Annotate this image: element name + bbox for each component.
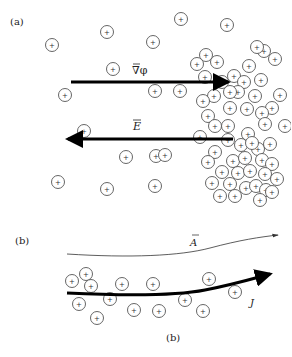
svg-text:+: +: [212, 149, 218, 157]
svg-text:+: +: [267, 141, 273, 149]
positive-ion-icon: +: [73, 298, 86, 311]
positive-ion-icon: +: [229, 286, 242, 299]
svg-text:+: +: [235, 170, 241, 178]
positive-ion-icon: +: [153, 305, 166, 318]
positive-ion-icon: +: [85, 280, 98, 293]
positive-ion-icon: +: [202, 156, 215, 169]
svg-text:+: +: [277, 92, 283, 100]
positive-ion-icon: +: [91, 312, 104, 325]
svg-text:+: +: [254, 44, 260, 52]
svg-text:+: +: [62, 92, 68, 100]
svg-text:+: +: [123, 154, 129, 162]
svg-text:+: +: [69, 278, 75, 286]
svg-text:+: +: [205, 113, 211, 121]
svg-text:+: +: [231, 73, 237, 81]
svg-text:+: +: [227, 105, 233, 113]
positive-ion-icon: +: [175, 13, 188, 26]
positive-ion-icon: +: [120, 151, 133, 164]
svg-text:+: +: [205, 159, 211, 167]
positive-ion-icon: +: [227, 155, 240, 168]
diagram: (a) ++++++++++++++++++++++++++++++++++++…: [0, 0, 291, 357]
positive-ion-icon: +: [197, 305, 210, 318]
positive-ion-icon: +: [249, 90, 262, 103]
svg-text:+: +: [242, 155, 248, 163]
svg-text:+: +: [156, 308, 162, 316]
svg-text:∇φ: ∇φ: [132, 64, 148, 77]
positive-ion-icon: +: [52, 176, 65, 189]
svg-text:+: +: [162, 152, 168, 160]
svg-text:+: +: [119, 281, 125, 289]
svg-text:+: +: [252, 93, 258, 101]
panel-a-ions: ++++++++++++++++++++++++++++++++++++++++…: [46, 13, 292, 207]
svg-text:+: +: [177, 88, 183, 96]
positive-ion-icon: +: [149, 180, 162, 193]
svg-text:+: +: [238, 142, 244, 150]
svg-text:+: +: [83, 271, 89, 279]
svg-text:+: +: [244, 106, 250, 114]
svg-text:+: +: [104, 186, 110, 194]
positive-ion-icon: +: [174, 85, 187, 98]
panel-b-label: (b): [15, 235, 29, 246]
svg-text:+: +: [272, 56, 278, 64]
positive-ion-icon: +: [101, 183, 114, 196]
svg-text:+: +: [88, 283, 94, 291]
svg-text:+: +: [212, 123, 218, 131]
positive-ion-icon: +: [244, 165, 257, 178]
positive-ion-icon: +: [232, 167, 245, 180]
vector-potential-arrow: [67, 235, 278, 256]
positive-ion-icon: +: [269, 53, 282, 66]
svg-text:+: +: [214, 59, 220, 67]
positive-ion-icon: +: [194, 131, 207, 144]
svg-text:+: +: [182, 297, 188, 305]
diagram-canvas: (a) ++++++++++++++++++++++++++++++++++++…: [0, 0, 291, 357]
svg-text:+: +: [269, 105, 275, 113]
positive-ion-icon: +: [239, 152, 252, 165]
positive-ion-icon: +: [264, 138, 277, 151]
positive-ion-icon: +: [243, 60, 256, 73]
positive-ion-icon: +: [149, 85, 162, 98]
svg-text:+: +: [274, 176, 280, 184]
positive-ion-icon: +: [221, 19, 234, 32]
positive-ion-icon: +: [222, 120, 235, 133]
e-field-label: E: [132, 120, 141, 133]
svg-text:+: +: [253, 183, 259, 191]
svg-text:+: +: [211, 93, 217, 101]
svg-text:+: +: [206, 276, 212, 284]
positive-ion-icon: +: [214, 190, 227, 203]
positive-ion-icon: +: [229, 190, 242, 203]
svg-text:E: E: [132, 120, 141, 133]
svg-text:+: +: [150, 39, 156, 47]
svg-text:+: +: [76, 301, 82, 309]
svg-text:+: +: [55, 179, 61, 187]
svg-text:+: +: [262, 171, 268, 179]
positive-ion-icon: +: [216, 166, 229, 179]
positive-ion-icon: +: [259, 118, 272, 131]
vector-potential-label: A: [189, 235, 199, 248]
current-density-label: J: [248, 297, 255, 308]
svg-text:+: +: [152, 183, 158, 191]
svg-text:+: +: [131, 307, 137, 315]
positive-ion-icon: +: [224, 86, 237, 99]
positive-ion-icon: +: [254, 194, 267, 207]
svg-text:+: +: [200, 308, 206, 316]
svg-text:+: +: [203, 52, 209, 60]
svg-text:+: +: [269, 161, 275, 169]
positive-ion-icon: +: [101, 26, 114, 39]
svg-text:+: +: [258, 77, 264, 85]
svg-text:+: +: [178, 16, 184, 24]
positive-ion-icon: +: [246, 137, 259, 150]
svg-text:+: +: [194, 61, 200, 69]
svg-text:+: +: [81, 128, 87, 136]
svg-text:+: +: [257, 197, 263, 205]
svg-text:+: +: [110, 66, 116, 74]
positive-ion-icon: +: [147, 36, 160, 49]
positive-ion-icon: +: [251, 41, 264, 54]
positive-ion-icon: +: [271, 173, 284, 186]
positive-ion-icon: +: [59, 89, 72, 102]
svg-text:+: +: [282, 123, 288, 131]
svg-text:A: A: [189, 237, 197, 248]
svg-text:+: +: [225, 123, 231, 131]
positive-ion-icon: +: [206, 177, 219, 190]
svg-text:+: +: [202, 74, 208, 82]
positive-ion-icon: +: [179, 294, 192, 307]
